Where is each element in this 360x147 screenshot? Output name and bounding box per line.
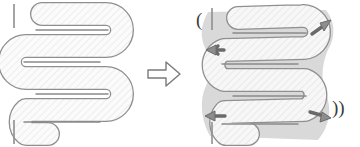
motion-mark-bottom-right: )) xyxy=(332,97,345,119)
serpentine-deformation-figure: ( )) xyxy=(0,0,360,147)
diagram-canvas: Serpentine tube deformation diagram xyxy=(0,0,360,147)
motion-mark-top-left: ( xyxy=(196,9,202,31)
panel-after: ( )) xyxy=(196,8,345,144)
